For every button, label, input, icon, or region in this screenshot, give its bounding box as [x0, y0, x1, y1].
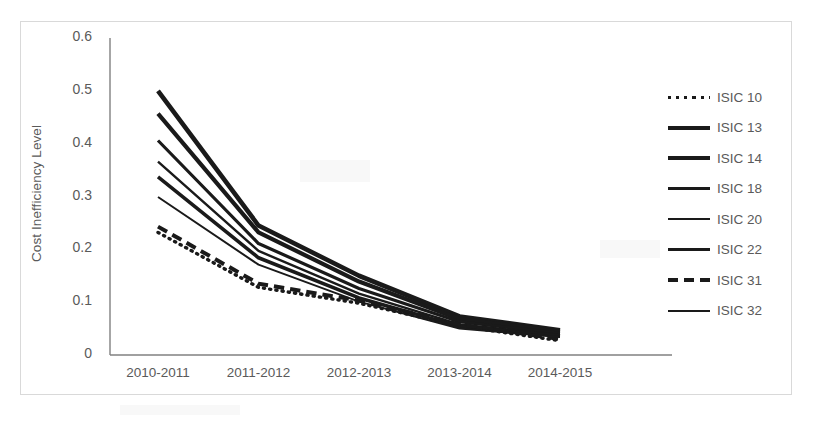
legend-swatch-icon	[668, 310, 710, 312]
legend-swatch-icon	[668, 156, 710, 160]
legend-swatch-icon	[668, 218, 710, 220]
legend-item-isic-10[interactable]: ISIC 10	[668, 82, 788, 113]
y-tick-label: 0.4	[48, 134, 92, 150]
x-tick-label: 2013-2014	[405, 365, 515, 380]
legend-swatch-icon	[668, 96, 710, 99]
scan-smudge	[120, 405, 240, 415]
legend-swatch-icon	[668, 278, 710, 282]
legend-item-isic-20[interactable]: ISIC 20	[668, 204, 788, 235]
legend-label: ISIC 31	[717, 273, 762, 288]
legend-item-isic-22[interactable]: ISIC 22	[668, 235, 788, 266]
legend-item-isic-18[interactable]: ISIC 18	[668, 174, 788, 205]
legend-label: ISIC 13	[717, 120, 762, 135]
chart-legend: ISIC 10ISIC 13ISIC 14ISIC 18ISIC 20ISIC …	[668, 82, 788, 326]
legend-item-isic-13[interactable]: ISIC 13	[668, 113, 788, 144]
x-tick-label: 2012-2013	[304, 365, 414, 380]
y-tick-label: 0.2	[48, 239, 92, 255]
x-tick-label: 2010-2011	[103, 365, 213, 380]
legend-swatch-icon	[668, 248, 710, 251]
chart-figure: Cost Inefficiency Level 00.10.20.30.40.5…	[0, 0, 819, 424]
y-tick-label: 0.5	[48, 81, 92, 97]
y-tick-label: 0.1	[48, 292, 92, 308]
y-tick-label: 0.6	[48, 28, 92, 44]
legend-label: ISIC 18	[717, 181, 762, 196]
legend-swatch-icon	[668, 126, 710, 130]
y-tick-label: 0	[48, 345, 92, 361]
x-tick-label: 2014-2015	[505, 365, 615, 380]
legend-label: ISIC 20	[717, 212, 762, 227]
legend-label: ISIC 10	[717, 90, 762, 105]
legend-label: ISIC 14	[717, 151, 762, 166]
legend-item-isic-31[interactable]: ISIC 31	[668, 265, 788, 296]
legend-label: ISIC 32	[717, 303, 762, 318]
legend-swatch-icon	[668, 187, 710, 190]
legend-item-isic-14[interactable]: ISIC 14	[668, 143, 788, 174]
x-tick-label: 2011-2012	[204, 365, 314, 380]
y-tick-label: 0.3	[48, 187, 92, 203]
y-axis-title: Cost Inefficiency Level	[29, 74, 44, 314]
legend-label: ISIC 22	[717, 242, 762, 257]
legend-item-isic-32[interactable]: ISIC 32	[668, 296, 788, 327]
